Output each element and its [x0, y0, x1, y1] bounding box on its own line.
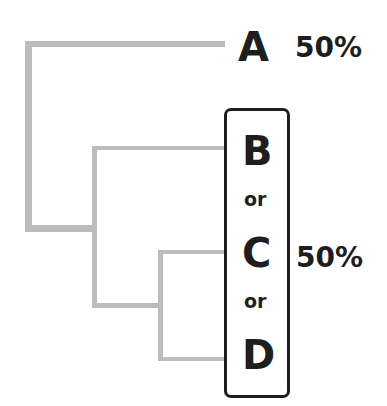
- branch-root-vertical: [25, 42, 32, 232]
- leaf-label-b: B: [242, 131, 273, 171]
- leaf-label-d: D: [242, 335, 275, 375]
- branch-d-horizontal: [158, 357, 226, 361]
- or-separator-1: or: [244, 190, 266, 209]
- branch-bcd-to-cd: [92, 303, 162, 308]
- branch-bcd-vertical: [92, 146, 97, 308]
- probability-a: 50%: [295, 34, 362, 62]
- or-separator-2: or: [244, 292, 266, 311]
- branch-cd-vertical: [158, 250, 163, 361]
- branch-b-horizontal: [92, 146, 226, 150]
- branch-c-horizontal: [158, 250, 226, 254]
- leaf-label-c: C: [242, 233, 271, 273]
- branch-a-horizontal: [25, 41, 225, 47]
- probability-bcd: 50%: [296, 244, 363, 272]
- branch-root-to-bcd: [25, 225, 95, 232]
- leaf-label-a: A: [238, 27, 269, 67]
